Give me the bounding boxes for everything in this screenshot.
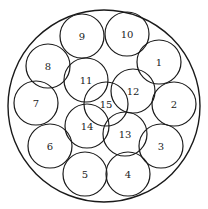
circle-label: 11 [80, 75, 93, 86]
circle-label: 4 [125, 169, 131, 180]
circle-label: 3 [158, 141, 164, 152]
circle-label: 13 [119, 129, 132, 140]
circle-label: 9 [79, 31, 85, 42]
circle-label: 10 [121, 29, 134, 40]
circle-label: 6 [47, 141, 53, 152]
circle-packing-diagram: 123456789101112131415 [0, 0, 208, 209]
circle-label: 7 [33, 98, 39, 109]
circle-label: 15 [100, 99, 113, 110]
circle-1: 1 [137, 40, 181, 84]
circle-12: 12 [111, 69, 155, 113]
circle-13: 13 [103, 112, 147, 156]
circle-8: 8 [26, 44, 70, 88]
circle-10: 10 [105, 12, 149, 56]
circle-9: 9 [60, 14, 104, 58]
circle-2: 2 [152, 82, 196, 126]
circle-label: 12 [127, 86, 140, 97]
circle-label: 5 [82, 169, 88, 180]
circle-4: 4 [106, 152, 150, 196]
circle-label: 1 [156, 57, 162, 68]
inner-circles: 123456789101112131415 [14, 12, 196, 196]
circle-label: 14 [81, 121, 94, 132]
circle-5: 5 [63, 152, 107, 196]
circle-label: 2 [171, 99, 177, 110]
circle-label: 8 [45, 61, 51, 72]
